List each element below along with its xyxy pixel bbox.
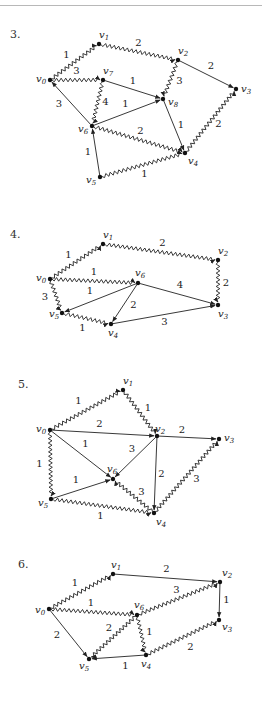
edge-v0-v6 bbox=[51, 608, 134, 617]
edge-weight: 1 bbox=[73, 474, 79, 485]
node-v8 bbox=[161, 97, 165, 101]
node-label-v5: v5 bbox=[38, 497, 49, 510]
edge-weight: 1 bbox=[65, 249, 71, 260]
edge-v0-v7 bbox=[52, 78, 100, 82]
edge-v0-v6 bbox=[52, 431, 111, 477]
edge-weight: 4 bbox=[102, 96, 108, 107]
node-label-v3: v3 bbox=[218, 308, 229, 321]
edge-v2-v8 bbox=[163, 62, 177, 96]
node-v5 bbox=[87, 657, 91, 661]
edge-v0-v1 bbox=[52, 391, 121, 430]
edge-weight: 1 bbox=[146, 626, 152, 637]
diagram-number: 3. bbox=[10, 28, 21, 41]
edge-weight: 1 bbox=[72, 577, 78, 588]
edge-weight: 1 bbox=[79, 322, 85, 333]
edge-weight: 2 bbox=[163, 563, 169, 574]
edge-weight: 1 bbox=[130, 75, 136, 86]
node-label-v4: v4 bbox=[188, 155, 198, 168]
edge-v2-v3 bbox=[219, 584, 220, 617]
node-label-v4: v4 bbox=[156, 516, 166, 529]
node-v2 bbox=[216, 258, 220, 262]
node-label-v6: v6 bbox=[78, 123, 89, 136]
node-label-v2: v2 bbox=[222, 567, 233, 580]
node-label-v2: v2 bbox=[218, 245, 229, 258]
edge-weight: 3 bbox=[176, 75, 182, 86]
node-label-v6: v6 bbox=[135, 267, 146, 280]
node-v3 bbox=[217, 437, 221, 441]
node-v3 bbox=[216, 303, 220, 307]
node-v4 bbox=[144, 653, 148, 657]
node-label-v0: v0 bbox=[35, 604, 46, 617]
node-label-v6: v6 bbox=[107, 463, 118, 476]
edge-v0-v5 bbox=[50, 281, 62, 310]
node-label-v4: v4 bbox=[108, 327, 118, 340]
node-v6 bbox=[90, 124, 94, 128]
edge-weight: 1 bbox=[75, 395, 81, 406]
edge-weight: 1 bbox=[82, 438, 88, 449]
node-label-v1: v1 bbox=[123, 375, 133, 388]
node-v4 bbox=[183, 151, 187, 155]
edge-weight: 3 bbox=[193, 473, 199, 484]
node-v2 bbox=[155, 434, 159, 438]
edge-weight: 2 bbox=[106, 622, 112, 633]
node-v5 bbox=[49, 497, 53, 501]
node-label-v1: v1 bbox=[99, 29, 109, 42]
edge-weight: 2 bbox=[187, 641, 193, 652]
node-v6 bbox=[111, 477, 115, 481]
node-label-v8: v8 bbox=[168, 96, 179, 109]
edge-v6-v5 bbox=[91, 616, 135, 657]
diagram-4: 4.1221412313v0v1v2v6v3v5v4 bbox=[10, 228, 229, 340]
diagram-number: 5. bbox=[18, 378, 29, 391]
edge-weight: 2 bbox=[130, 299, 136, 310]
edge-v4-v3 bbox=[148, 621, 216, 654]
edge-weight: 1 bbox=[85, 146, 91, 157]
edge-weight: 1 bbox=[87, 285, 93, 296]
node-label-v3: v3 bbox=[241, 83, 252, 96]
edge-weight: 2 bbox=[223, 277, 229, 288]
node-label-v3: v3 bbox=[222, 621, 233, 634]
node-v6 bbox=[136, 281, 140, 285]
diagram-6: 6.1211322112v1v0v2v6v3v5v4 bbox=[18, 558, 233, 673]
node-label-v5: v5 bbox=[49, 308, 60, 321]
edge-v4-v3 bbox=[186, 91, 234, 151]
edge-weight: 1 bbox=[122, 660, 128, 671]
edge-v0-v5 bbox=[48, 432, 52, 496]
edge-weight: 2 bbox=[208, 60, 214, 71]
edge-v5-v6 bbox=[92, 129, 99, 175]
edge-weight: 2 bbox=[158, 468, 164, 479]
edge-weight: 1 bbox=[178, 119, 184, 130]
edge-weight: 3 bbox=[56, 98, 62, 109]
edge-v4-v6 bbox=[115, 481, 152, 512]
node-v7 bbox=[101, 78, 105, 82]
diagram-3: 3.12231343112211v0v1v2v3v7v8v6v4v5 bbox=[10, 28, 252, 187]
node-v6 bbox=[135, 613, 139, 617]
node-label-v3: v3 bbox=[224, 432, 235, 445]
edge-v0-v2 bbox=[52, 430, 154, 436]
node-v2 bbox=[218, 580, 222, 584]
node-label-v7: v7 bbox=[103, 65, 114, 78]
edge-weight: 1 bbox=[141, 168, 147, 179]
node-v2 bbox=[176, 58, 180, 62]
edge-weight: 3 bbox=[73, 65, 79, 76]
node-v1 bbox=[111, 572, 115, 576]
node-v5 bbox=[60, 311, 64, 315]
node-v1 bbox=[121, 388, 125, 392]
node-label-v0: v0 bbox=[36, 272, 47, 285]
diagram-number: 4. bbox=[10, 228, 21, 241]
edge-weight: 3 bbox=[138, 486, 144, 497]
edge-weight: 4 bbox=[177, 279, 183, 290]
edge-v6-v4 bbox=[136, 617, 146, 652]
node-label-v5: v5 bbox=[86, 174, 97, 187]
edge-weight: 2 bbox=[54, 629, 60, 640]
edge-weight: 2 bbox=[215, 118, 221, 129]
edge-weight: 2 bbox=[96, 418, 102, 429]
node-label-v0: v0 bbox=[36, 73, 47, 86]
edge-v2-v3 bbox=[216, 262, 220, 302]
node-v4 bbox=[109, 322, 113, 326]
edge-weight: 3 bbox=[173, 584, 179, 595]
edge-v6-v5 bbox=[65, 284, 136, 312]
edge-weight: 2 bbox=[179, 424, 185, 435]
node-v3 bbox=[234, 87, 238, 91]
edge-v5-v4 bbox=[64, 313, 108, 325]
edge-weight: 3 bbox=[129, 443, 135, 454]
